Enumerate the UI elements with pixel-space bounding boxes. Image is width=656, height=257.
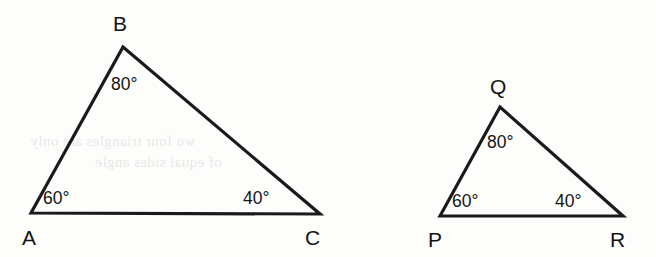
figure-canvas: A B C 60° 80° 40° P Q R 60° 80° 40°	[0, 0, 656, 257]
triangle-pqr-group: P Q R 60° 80° 40°	[428, 75, 625, 251]
triangle-abc-group: A B C 60° 80° 40°	[22, 12, 320, 249]
angle-label-q-80: 80°	[487, 132, 513, 152]
vertex-label-a: A	[22, 226, 36, 249]
vertex-label-r: R	[610, 228, 625, 251]
vertex-label-q: Q	[490, 75, 506, 98]
angle-label-r-40: 40°	[555, 191, 581, 211]
vertex-label-b: B	[113, 12, 127, 35]
angle-label-b-80: 80°	[111, 74, 137, 94]
angle-label-a-60: 60°	[43, 188, 69, 208]
angle-label-p-60: 60°	[452, 191, 478, 211]
vertex-label-p: P	[428, 228, 442, 251]
angle-label-c-40: 40°	[243, 188, 269, 208]
vertex-label-c: C	[305, 226, 320, 249]
triangle-abc-outline	[31, 47, 320, 214]
geometry-figure: wo four triangles are only of equal side…	[0, 0, 656, 257]
